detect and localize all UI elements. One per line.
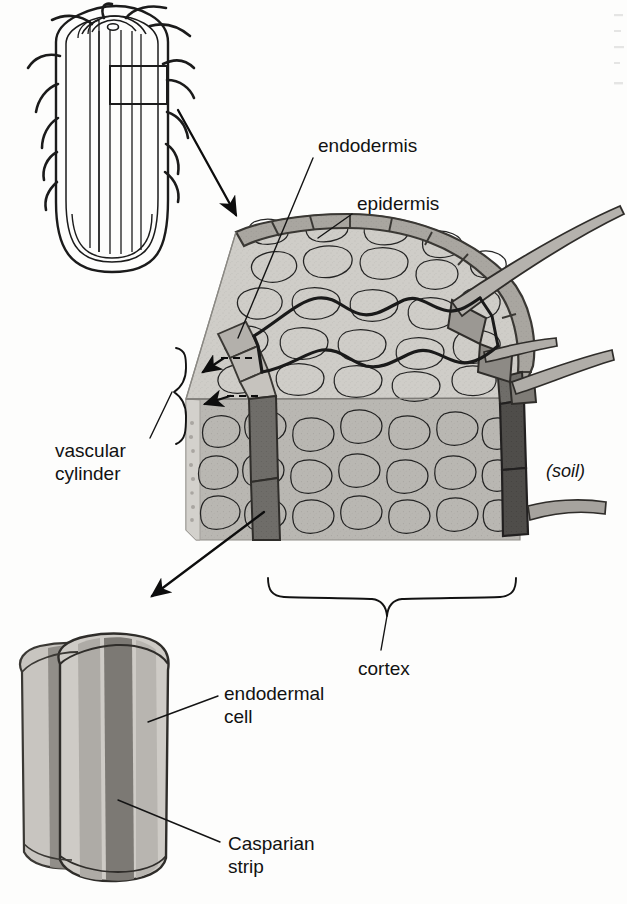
label-vascular-line1: vascular	[55, 440, 126, 461]
label-casparian-line1: Casparian	[228, 833, 315, 854]
label-endodermis: endodermis	[318, 135, 417, 156]
strip-band-light	[78, 638, 102, 880]
label-endodermal-cell-line1: endodermal	[224, 683, 324, 704]
label-vascular-line2: cylinder	[55, 463, 121, 484]
casparian-strip-band-dark	[104, 637, 134, 880]
label-endodermal-cell-line2: cell	[224, 706, 253, 727]
label-casparian-line2: strip	[228, 856, 264, 877]
figure-root-endodermis: endodermis epidermis vascular cylinder (…	[0, 0, 627, 904]
label-epidermis: epidermis	[357, 193, 439, 214]
label-cortex: cortex	[358, 658, 410, 679]
strip-band-right	[136, 640, 158, 878]
label-soil: (soil)	[546, 461, 585, 481]
block-front-face	[186, 398, 520, 540]
